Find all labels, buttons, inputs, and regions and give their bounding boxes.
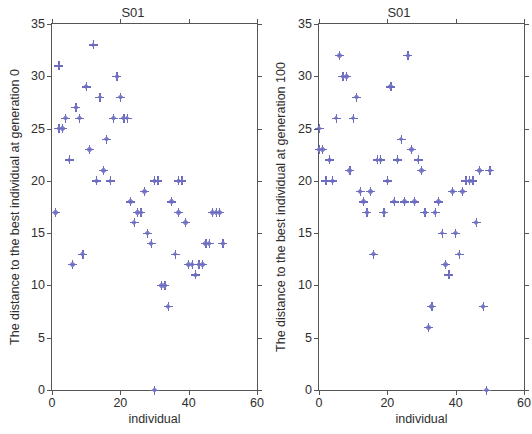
y-axis-tick	[47, 76, 52, 77]
y-axis-tick-label: 35	[298, 17, 312, 31]
y-axis-tick-label: 5	[305, 331, 312, 345]
x-axis-tick	[257, 390, 258, 395]
x-axis-tick-label: 0	[49, 396, 56, 410]
data-point	[215, 208, 224, 217]
data-point	[472, 218, 481, 227]
y-axis-tick	[314, 24, 319, 25]
figure-container: S01 The distance to the best individual …	[0, 0, 532, 434]
y-axis-tick	[47, 24, 52, 25]
data-point	[106, 176, 115, 185]
data-point	[482, 386, 491, 395]
data-point	[321, 176, 330, 185]
data-point	[130, 218, 139, 227]
data-point	[349, 114, 358, 123]
data-point	[116, 93, 125, 102]
data-point	[461, 176, 470, 185]
data-point	[400, 197, 409, 206]
data-point	[194, 260, 203, 269]
data-point	[424, 323, 433, 332]
data-point	[112, 72, 121, 81]
x-axis-tick-top	[120, 19, 121, 24]
data-point	[157, 281, 166, 290]
data-point	[51, 208, 60, 217]
y-axis-tick	[47, 129, 52, 130]
data-point	[451, 229, 460, 238]
y-axis-tick-label: 35	[31, 17, 45, 31]
y-axis-tick-right	[257, 233, 262, 234]
data-point	[431, 208, 440, 217]
x-axis-tick-top	[387, 19, 388, 24]
y-axis-tick-right	[524, 76, 529, 77]
y-axis-tick-right	[257, 181, 262, 182]
data-point	[205, 239, 214, 248]
y-axis-tick-label: 20	[298, 174, 312, 188]
x-axis-tick-top	[189, 19, 190, 24]
scatter-plot-area	[52, 24, 257, 390]
data-point	[212, 208, 221, 217]
data-point	[109, 114, 118, 123]
data-point	[318, 145, 327, 154]
data-point	[410, 197, 419, 206]
x-axis-tick-label: 40	[449, 396, 463, 410]
data-point	[153, 176, 162, 185]
plot-title: S01	[121, 5, 144, 20]
data-point	[85, 145, 94, 154]
y-axis-tick-right	[257, 285, 262, 286]
y-axis-tick	[314, 181, 319, 182]
data-point	[167, 197, 176, 206]
y-axis-tick	[314, 76, 319, 77]
x-axis-tick-label: 20	[113, 396, 127, 410]
data-point	[174, 208, 183, 217]
data-point	[345, 166, 354, 175]
y-axis-label-container: The distance to the best individual at g…	[11, 23, 27, 391]
y-axis-tick-right	[524, 181, 529, 182]
y-axis-label: The distance to the best individual at g…	[274, 62, 288, 352]
y-axis-tick-right	[524, 285, 529, 286]
data-point	[362, 208, 371, 217]
data-point	[335, 51, 344, 60]
data-point	[420, 208, 429, 217]
data-point	[184, 260, 193, 269]
data-point	[352, 93, 361, 102]
y-axis-tick-label: 25	[31, 122, 45, 136]
data-point	[427, 302, 436, 311]
y-axis-label-container: The distance to the best individual at g…	[277, 23, 293, 391]
data-point	[164, 302, 173, 311]
x-axis-tick	[319, 390, 320, 395]
x-axis-tick-top	[456, 19, 457, 24]
y-axis-tick-label: 0	[305, 383, 312, 397]
data-point	[126, 197, 135, 206]
data-point	[434, 197, 443, 206]
data-point	[181, 218, 190, 227]
y-axis-tick-right	[524, 338, 529, 339]
data-point	[65, 155, 74, 164]
data-point	[89, 40, 98, 49]
data-point	[414, 155, 423, 164]
y-axis-tick	[47, 181, 52, 182]
y-axis-tick-right	[257, 338, 262, 339]
x-axis-tick-top	[52, 19, 53, 24]
x-axis-tick-label: 20	[380, 396, 394, 410]
data-point	[218, 239, 227, 248]
x-axis-tick-label: 60	[517, 396, 531, 410]
data-point	[160, 281, 169, 290]
data-point	[458, 187, 467, 196]
plot-title: S01	[387, 5, 410, 20]
plot-axes: 051015202530350204060	[51, 23, 258, 391]
y-axis-tick-label: 10	[31, 278, 45, 292]
data-point	[373, 155, 382, 164]
data-point	[417, 166, 426, 175]
data-point	[315, 145, 324, 154]
y-axis-tick-label: 25	[298, 122, 312, 136]
data-point	[188, 260, 197, 269]
data-point	[75, 114, 84, 123]
data-point	[383, 176, 392, 185]
data-point	[359, 197, 368, 206]
scatter-plot-area	[319, 24, 524, 390]
data-point	[479, 302, 488, 311]
panel-left: S01 The distance to the best individual …	[0, 0, 266, 434]
data-point	[150, 176, 159, 185]
data-point	[441, 260, 450, 269]
y-axis-tick-right	[257, 76, 262, 77]
data-point	[328, 176, 337, 185]
